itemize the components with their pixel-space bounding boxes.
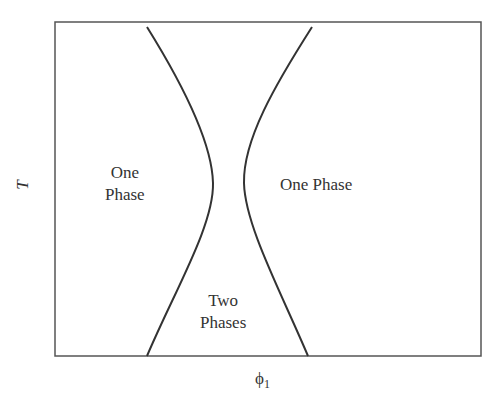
left-region-line2: Phase xyxy=(105,184,145,206)
center-region-line2: Phases xyxy=(200,312,246,334)
left-region-label: One Phase xyxy=(105,162,145,206)
x-axis-symbol: ϕ xyxy=(255,369,264,388)
phase-diagram xyxy=(0,0,502,412)
left-region-line1: One xyxy=(105,162,145,184)
right-region-label: One Phase xyxy=(280,174,352,196)
center-region-label: Two Phases xyxy=(200,290,246,334)
y-axis-label: T xyxy=(12,180,34,189)
center-region-line1: Two xyxy=(200,290,246,312)
x-axis-subscript: 1 xyxy=(264,377,270,391)
x-axis-label: ϕ1 xyxy=(255,368,270,395)
